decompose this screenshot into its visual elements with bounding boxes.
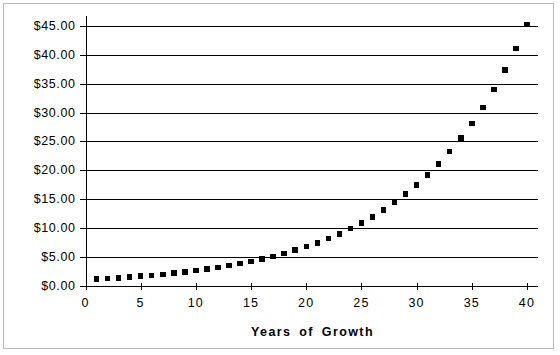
x-axis-tick: [361, 283, 362, 290]
data-point: [370, 214, 376, 220]
data-point: [160, 272, 166, 278]
data-point: [491, 87, 497, 93]
data-point: [436, 161, 442, 167]
y-axis-tick-label: $30.00: [0, 107, 76, 120]
y-axis-tick-label: $15.00: [0, 193, 76, 206]
gridline: [86, 55, 539, 56]
y-axis-tick-label: $20.00: [0, 164, 76, 177]
data-point: [215, 265, 221, 271]
x-axis-tick-label: 5: [121, 297, 161, 310]
chart-plot-area: $0.00$5.00$10.00$15.00$20.00$25.00$30.00…: [0, 0, 560, 355]
x-axis-tick-label: 10: [176, 297, 216, 310]
y-axis-line: [86, 16, 87, 286]
gridline: [86, 170, 539, 171]
x-axis-title: Years of Growth: [85, 325, 540, 339]
y-axis-tick-label: $45.00: [0, 20, 76, 33]
y-axis-tick-label: $5.00: [0, 251, 76, 264]
data-point: [270, 254, 276, 260]
x-axis-tick-label: 30: [397, 297, 437, 310]
gridline: [86, 228, 539, 229]
x-axis-tick: [86, 283, 87, 290]
x-axis-tick-label: 25: [341, 297, 381, 310]
data-point: [392, 200, 398, 206]
y-axis-tick-label: $25.00: [0, 135, 76, 148]
data-point: [193, 268, 199, 274]
y-axis-tick: [80, 113, 87, 114]
x-axis-tick: [306, 283, 307, 290]
data-point: [127, 274, 133, 280]
data-point: [182, 269, 188, 275]
data-point: [348, 226, 354, 232]
data-point: [226, 263, 232, 269]
data-point: [292, 247, 298, 253]
data-point: [116, 275, 122, 281]
y-axis-tick: [80, 55, 87, 56]
gridline: [86, 26, 539, 27]
x-axis-line: [86, 286, 539, 287]
data-point: [304, 244, 310, 250]
data-point: [94, 276, 100, 282]
data-point: [259, 256, 265, 262]
data-point: [204, 266, 210, 272]
data-point: [149, 273, 155, 279]
y-axis-tick: [80, 199, 87, 200]
y-axis-tick-label: $0.00: [0, 280, 76, 293]
x-axis-tick-label: 35: [452, 297, 492, 310]
data-point: [403, 191, 409, 197]
x-axis-tick: [527, 283, 528, 290]
x-axis-tick: [417, 283, 418, 290]
x-axis-tick: [141, 283, 142, 290]
y-axis-tick-label: $40.00: [0, 49, 76, 62]
data-point: [425, 172, 431, 178]
gridline: [86, 113, 539, 114]
y-axis-tick: [80, 170, 87, 171]
data-point: [248, 259, 254, 265]
y-axis-tick: [80, 257, 87, 258]
data-point: [326, 236, 332, 242]
data-point: [513, 46, 519, 52]
data-point: [414, 182, 420, 188]
y-axis-tick-label: $10.00: [0, 222, 76, 235]
data-point: [138, 273, 144, 279]
data-point: [469, 121, 475, 127]
y-axis-tick-label: $35.00: [0, 78, 76, 91]
gridline: [86, 141, 539, 142]
x-axis-tick-label: 15: [231, 297, 271, 310]
data-point: [447, 149, 453, 155]
data-point: [315, 240, 321, 246]
data-point: [281, 251, 287, 257]
y-axis-tick: [80, 84, 87, 85]
y-axis-tick: [80, 228, 87, 229]
data-point: [458, 135, 464, 141]
data-point: [105, 276, 111, 282]
data-point: [359, 220, 365, 226]
gridline: [86, 84, 539, 85]
gridline: [86, 199, 539, 200]
data-point: [524, 22, 530, 28]
x-axis-tick: [251, 283, 252, 290]
data-point: [237, 261, 243, 267]
data-point: [171, 270, 177, 276]
y-axis-tick: [80, 141, 87, 142]
data-point: [337, 231, 343, 237]
data-point: [381, 207, 387, 213]
y-axis-tick: [80, 26, 87, 27]
data-point: [480, 105, 486, 111]
data-point: [502, 67, 508, 73]
x-axis-tick: [196, 283, 197, 290]
x-axis-tick-label: 0: [66, 297, 106, 310]
x-axis-tick: [472, 283, 473, 290]
gridline: [86, 257, 539, 258]
x-axis-tick-label: 20: [286, 297, 326, 310]
x-axis-tick-label: 40: [507, 297, 547, 310]
